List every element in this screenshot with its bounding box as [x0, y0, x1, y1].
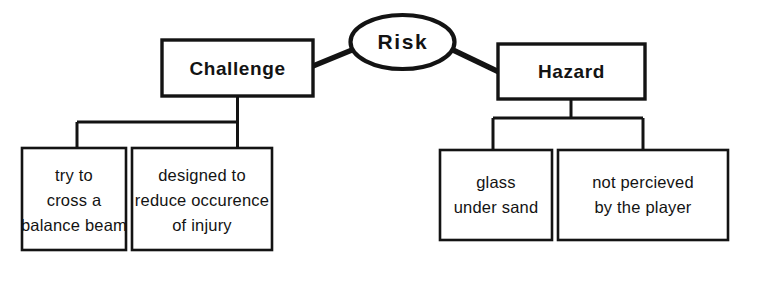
- leaf-hazard-child-2-line-2: by the player: [594, 198, 691, 216]
- connector-risk-to-hazard: [453, 50, 499, 72]
- node-risk-root[interactable]: Risk: [351, 15, 455, 69]
- leaf-hazard-child-2-box[interactable]: [558, 150, 728, 240]
- leaf-hazard-child-1-line-2: under sand: [454, 198, 539, 216]
- leaf-challenge-child-2[interactable]: designed to reduce occurence of injury: [132, 148, 272, 250]
- node-hazard-label: Hazard: [538, 61, 605, 82]
- leaf-hazard-child-1[interactable]: glass under sand: [440, 150, 552, 240]
- connector-risk-to-challenge: [313, 50, 352, 66]
- leaf-hazard-child-2-line-1: not percieved: [592, 173, 694, 191]
- leaf-challenge-child-2-line-3: of injury: [172, 216, 232, 234]
- leaf-hazard-child-2[interactable]: not percieved by the player: [558, 150, 728, 240]
- node-challenge[interactable]: Challenge: [162, 40, 313, 96]
- leaf-challenge-child-2-line-1: designed to: [158, 166, 246, 184]
- leaf-challenge-child-1[interactable]: try to cross a balance beam: [21, 148, 127, 250]
- node-hazard[interactable]: Hazard: [498, 44, 645, 99]
- leaf-challenge-child-1-line-3: balance beam: [21, 216, 127, 234]
- leaf-hazard-child-1-box[interactable]: [440, 150, 552, 240]
- leaf-challenge-child-1-line-2: cross a: [47, 191, 102, 209]
- leaf-challenge-child-2-line-2: reduce occurence: [135, 191, 269, 209]
- leaf-challenge-child-1-line-1: try to: [55, 166, 93, 184]
- node-challenge-label: Challenge: [189, 58, 285, 79]
- diagram-canvas: Challenge Hazard Risk try to cross a bal…: [0, 0, 762, 281]
- risk-hierarchy-diagram: Challenge Hazard Risk try to cross a bal…: [0, 0, 762, 281]
- node-risk-label: Risk: [378, 30, 429, 53]
- leaf-hazard-child-1-line-1: glass: [476, 173, 516, 191]
